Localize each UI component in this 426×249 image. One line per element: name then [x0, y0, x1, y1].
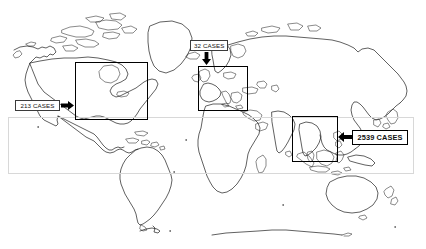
region-box-north-america[interactable]	[75, 62, 148, 120]
arrow-down-icon	[202, 52, 211, 65]
callout-north-america-cases: 213 CASES	[15, 100, 60, 111]
arrow-left-icon	[338, 132, 352, 142]
region-box-southeast-asia[interactable]	[292, 116, 338, 162]
world-map-figure: 213 CASES 32 CASES 2539 CASES	[0, 0, 426, 249]
world-map-outline	[0, 0, 426, 249]
region-box-europe[interactable]	[198, 66, 248, 111]
callout-europe-cases: 32 CASES	[190, 40, 228, 51]
arrow-right-icon	[61, 101, 74, 110]
callout-southeast-asia-cases: 2539 CASES	[352, 130, 408, 145]
